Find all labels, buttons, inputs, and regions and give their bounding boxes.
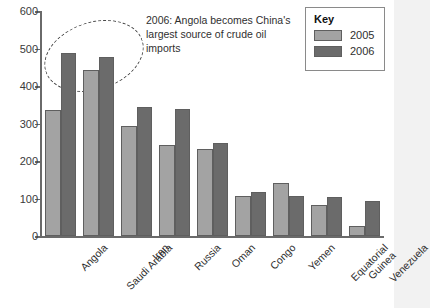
y-tick-label: 500 [20, 43, 38, 55]
x-tick-label: Yemen [307, 242, 338, 273]
bar-2005 [349, 226, 365, 236]
bar-2005 [83, 70, 99, 236]
bar-2006 [99, 57, 115, 236]
bar-2006 [61, 53, 77, 236]
plot-area: Thousand barrels per day 600500400300200… [40, 11, 384, 236]
y-tick-label: 400 [20, 80, 38, 92]
y-tick-label: 200 [20, 155, 38, 167]
x-tick-label: Congo [268, 242, 298, 272]
bar-group [346, 11, 384, 236]
bar-series-container [42, 11, 385, 236]
bar-2005 [159, 145, 175, 236]
x-tick-label: Venezuela [388, 242, 430, 284]
bar-group [232, 11, 270, 236]
bar-2005 [197, 149, 213, 236]
bar-group [270, 11, 308, 236]
x-axis-line [40, 236, 384, 238]
x-tick-label: Equatorial Guinea [349, 242, 398, 291]
y-tick-label: 300 [20, 118, 38, 130]
bar-2006 [251, 192, 267, 236]
bar-2005 [273, 183, 289, 236]
bar-group [118, 11, 156, 236]
y-tick-label: 0 [32, 230, 38, 242]
bar-2005 [121, 126, 137, 236]
x-tick-label: Oman [229, 242, 257, 270]
bar-2005 [235, 196, 251, 236]
x-tick-label: Russia [192, 242, 222, 272]
bar-2005 [311, 205, 327, 236]
y-tick-label: 600 [20, 5, 38, 17]
bar-group [194, 11, 232, 236]
bar-group [80, 11, 118, 236]
bar-group [42, 11, 80, 236]
bar-group [156, 11, 194, 236]
bar-group [308, 11, 346, 236]
bar-2006 [137, 107, 153, 236]
y-tick-label: 100 [20, 193, 38, 205]
bar-2005 [45, 110, 61, 236]
bar-2006 [213, 143, 229, 236]
bar-2006 [365, 201, 381, 236]
x-tick-label: Angola [78, 242, 109, 273]
bar-2006 [327, 197, 343, 236]
bar-2006 [175, 109, 191, 236]
bar-2006 [289, 196, 305, 237]
